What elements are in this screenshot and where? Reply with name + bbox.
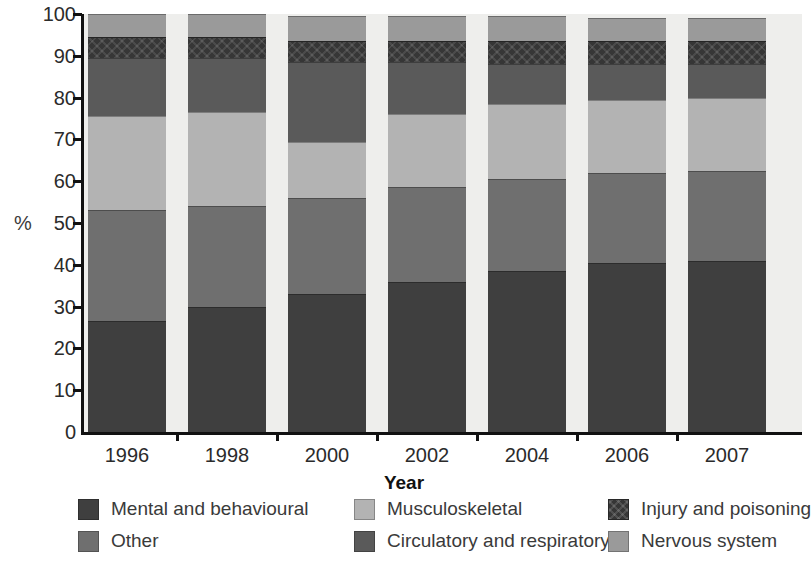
bar-2007 [688,14,766,432]
bar-segment [688,171,766,261]
y-tick-label: 90 [34,46,76,66]
bar-segment [88,116,166,210]
legend-item[interactable]: Musculoskeletal [354,497,522,521]
bar-segment [588,173,666,263]
bar-segment [588,100,666,173]
legend-swatch-icon [608,531,629,552]
bar-1998 [188,14,266,432]
plot-area [84,14,802,432]
bar-segment [388,16,466,41]
y-tick-label: 70 [34,129,76,149]
bar-2000 [288,14,366,432]
bar-segment [388,114,466,187]
y-tick-mark [73,222,82,225]
bar-segment [688,64,766,97]
bar-segment [288,62,366,141]
legend-label: Mental and behavioural [111,499,309,519]
x-tick-label-2002: 2002 [388,444,466,467]
bar-segment [488,16,566,41]
bar-segment [288,16,366,41]
bar-segment [688,18,766,41]
legend-swatch-icon [354,499,375,520]
legend-swatch-icon [78,499,99,520]
bar-segment [188,58,266,112]
bar-segment [588,64,666,100]
x-tick-mark [576,433,579,441]
legend-label: Injury and poisoning [641,499,811,519]
legend-label: Other [111,531,159,551]
bar-segment [388,41,466,62]
bar-2006 [588,14,666,432]
bar-segment [188,307,266,432]
x-tick-label-2006: 2006 [588,444,666,467]
bar-segment [88,58,166,117]
x-tick-label-2000: 2000 [288,444,366,467]
y-tick-label: 100 [34,4,76,24]
bar-2002 [388,14,466,432]
legend-swatch-icon [78,531,99,552]
bar-segment [88,14,166,37]
bar-segment [488,179,566,271]
y-tick-mark [73,97,82,100]
bar-segment [488,271,566,432]
bar-segment [188,37,266,58]
legend-item[interactable]: Other [78,529,159,553]
chart-legend: Mental and behaviouralMusculoskeletalInj… [78,497,808,559]
bar-segment [88,210,166,321]
bar-segment [288,294,366,432]
bar-segment [288,41,366,62]
y-tick-label: 50 [34,213,76,233]
bar-segment [588,263,666,432]
bar-1996 [88,14,166,432]
x-tick-mark [476,433,479,441]
legend-item[interactable]: Injury and poisoning [608,497,811,521]
y-tick-mark [73,306,82,309]
y-tick-mark [73,13,82,16]
legend-item[interactable]: Circulatory and respiratory [354,529,610,553]
x-axis-title: Year [0,472,808,494]
bar-segment [688,98,766,171]
x-tick-label-2007: 2007 [688,444,766,467]
x-tick-mark [676,433,679,441]
y-tick-mark [73,264,82,267]
bar-segment [88,321,166,432]
x-tick-label-1998: 1998 [188,444,266,467]
legend-label: Musculoskeletal [387,499,522,519]
y-tick-mark [73,180,82,183]
y-tick-label: 20 [34,338,76,358]
y-tick-mark [73,138,82,141]
y-tick-label: 40 [34,255,76,275]
y-tick-mark [73,55,82,58]
bar-segment [588,18,666,41]
y-tick-label: 80 [34,88,76,108]
bar-segment [188,14,266,37]
bar-segment [488,41,566,64]
bar-segment [388,187,466,281]
bar-segment [588,41,666,64]
bar-segment [688,41,766,64]
legend-label: Circulatory and respiratory [387,531,610,551]
y-tick-mark [73,347,82,350]
bar-segment [288,198,366,294]
y-tick-label: 0 [34,422,76,442]
bar-segment [188,112,266,206]
bar-segment [388,62,466,114]
bar-segment [288,142,366,198]
y-axis-tick-labels: 0102030405060708090100 [34,0,76,447]
legend-label: Nervous system [641,531,777,551]
legend-item[interactable]: Nervous system [608,529,777,553]
legend-swatch-icon [354,531,375,552]
legend-swatch-icon [608,499,629,520]
bar-2004 [488,14,566,432]
x-tick-mark [176,433,179,441]
bar-segment [88,37,166,58]
x-tick-mark [276,433,279,441]
y-tick-label: 60 [34,171,76,191]
y-tick-mark [73,389,82,392]
x-axis-line [81,432,802,435]
x-tick-mark [376,433,379,441]
y-tick-label: 30 [34,297,76,317]
legend-item[interactable]: Mental and behavioural [78,497,309,521]
x-tick-label-1996: 1996 [88,444,166,467]
